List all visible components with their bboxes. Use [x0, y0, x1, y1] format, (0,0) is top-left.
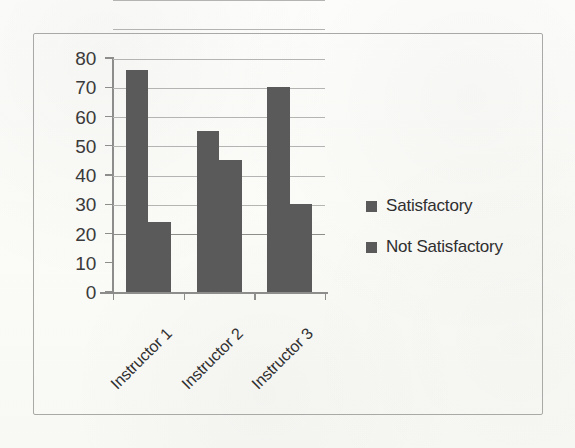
y-axis-label-60: 60	[50, 108, 96, 127]
y-axis-label-50: 50	[50, 137, 96, 156]
bar-instructor-2-satisfactory	[197, 131, 220, 292]
y-axis-label-20: 20	[50, 225, 96, 244]
plot-area	[113, 58, 325, 292]
bar-instructor-3-satisfactory	[267, 87, 290, 292]
x-axis-tick-1	[184, 292, 185, 300]
x-axis-tick-3	[325, 292, 326, 300]
x-axis-tick-origin	[113, 292, 114, 300]
y-axis-label-0: 0	[50, 283, 96, 302]
y-axis-label-10: 10	[50, 254, 96, 273]
bar-instructor-1-satisfactory	[126, 70, 149, 292]
y-axis-label-30: 30	[50, 195, 96, 214]
legend-label: Satisfactory	[386, 196, 472, 216]
legend-label: Not Satisfactory	[386, 237, 503, 257]
x-axis-line	[100, 292, 328, 294]
legend-item-satisfactory[interactable]: Satisfactory	[366, 196, 526, 216]
y-axis-label-40: 40	[50, 166, 96, 185]
bar-instructor-2-not-satisfactory	[219, 160, 242, 292]
legend-swatch-icon	[366, 242, 377, 253]
gridline-80	[113, 0, 325, 1]
y-axis-label-80: 80	[50, 49, 96, 68]
bar-instructor-3-not-satisfactory	[290, 204, 313, 292]
legend-swatch-icon	[366, 201, 377, 212]
bar-instructor-1-not-satisfactory	[148, 222, 171, 292]
y-axis-label-70: 70	[50, 78, 96, 97]
gridline-70	[113, 29, 325, 30]
legend-item-not-satisfactory[interactable]: Not Satisfactory	[366, 237, 526, 257]
x-axis-tick-2	[254, 292, 255, 300]
chart-legend: SatisfactoryNot Satisfactory	[366, 196, 526, 278]
